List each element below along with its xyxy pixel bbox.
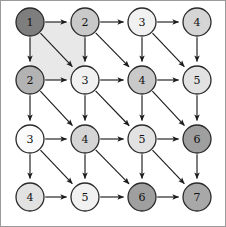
edge-diagonal [152,33,184,67]
edge-diagonal [152,150,184,184]
node-label: 5 [82,191,89,204]
edge-diagonal [152,91,184,125]
node-label: 2 [27,74,34,87]
graph-figure: 1234234534564567 [0,0,226,227]
edge-diagonal [96,150,129,184]
node-label: 3 [82,74,89,87]
edge-layer [30,22,197,197]
edge-diagonal [96,91,130,126]
graph-node[interactable]: 3 [128,8,156,36]
graph-node[interactable]: 4 [71,125,99,153]
node-label: 4 [82,133,89,146]
graph-node[interactable]: 7 [183,183,211,211]
graph-node[interactable]: 6 [183,125,211,153]
node-label: 3 [139,16,146,29]
graph-node[interactable]: 2 [16,66,44,94]
edge-diagonal [40,150,72,184]
node-label: 1 [27,16,34,29]
graph-node[interactable]: 2 [71,8,99,36]
graph-canvas: 1234234534564567 [0,0,226,227]
edge-diagonal [40,91,72,125]
graph-node[interactable]: 4 [128,66,156,94]
graph-node[interactable]: 5 [71,183,99,211]
graph-node[interactable]: 3 [16,125,44,153]
node-label: 4 [194,16,201,29]
node-label: 3 [27,133,34,146]
graph-node[interactable]: 1 [16,8,44,36]
graph-node[interactable]: 5 [183,66,211,94]
node-label: 5 [194,74,201,87]
node-label: 4 [139,74,146,87]
node-label: 4 [27,191,34,204]
node-label: 6 [194,133,201,146]
node-label: 7 [194,191,201,204]
node-label: 6 [139,191,146,204]
node-label: 2 [82,16,89,29]
graph-node[interactable]: 5 [128,125,156,153]
edge-diagonal [96,33,129,67]
graph-node[interactable]: 6 [128,183,156,211]
graph-node[interactable]: 4 [16,183,44,211]
graph-node[interactable]: 3 [71,66,99,94]
graph-node[interactable]: 4 [183,8,211,36]
node-label: 5 [139,133,146,146]
